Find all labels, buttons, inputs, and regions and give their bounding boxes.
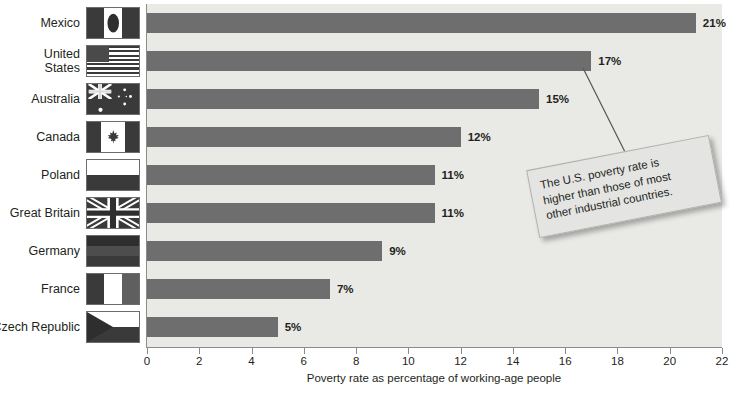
country-label: France — [0, 282, 80, 296]
country-label: Great Britain — [0, 206, 80, 220]
chart-row: Germany9% — [0, 232, 735, 270]
bar — [147, 241, 382, 261]
x-axis-tick-label: 2 — [196, 355, 202, 367]
country-label-line-1: Poland — [0, 168, 80, 182]
country-label-line-1: Australia — [0, 92, 80, 106]
x-axis-tick — [670, 348, 671, 354]
bar — [147, 165, 435, 185]
flag-france-icon — [86, 273, 140, 305]
country-label-line-1: Czech Republic — [0, 320, 80, 334]
flag-australia-icon — [86, 83, 140, 115]
country-label-line-1: Canada — [0, 130, 80, 144]
x-axis-tick — [722, 348, 723, 354]
flag-mexico-icon — [86, 7, 140, 39]
bar — [147, 89, 539, 109]
x-axis-tick — [356, 348, 357, 354]
x-axis-tick-label: 12 — [454, 355, 467, 367]
country-label-line-1: United — [0, 47, 80, 61]
bar-value-label: 15% — [546, 93, 569, 105]
x-axis-tick-label: 6 — [301, 355, 307, 367]
bar-value-label: 11% — [442, 169, 464, 181]
chart-row: Czech Republic5% — [0, 308, 735, 346]
x-axis-tick — [147, 348, 148, 354]
bar — [147, 127, 461, 147]
x-axis-tick-label: 16 — [559, 355, 572, 367]
x-axis-tick-label: 0 — [144, 355, 150, 367]
x-axis-tick — [252, 348, 253, 354]
x-axis-tick — [408, 348, 409, 354]
country-label: Poland — [0, 168, 80, 182]
x-axis-tick-label: 4 — [248, 355, 254, 367]
x-axis-tick — [304, 348, 305, 354]
x-axis-tick — [565, 348, 566, 354]
x-axis: 0246810121416182022 — [146, 348, 722, 368]
chart-row: France7% — [0, 270, 735, 308]
x-axis-tick-label: 10 — [402, 355, 415, 367]
chart-row: Mexico21% — [0, 4, 735, 42]
x-axis-tick — [461, 348, 462, 354]
bar-value-label: 7% — [337, 283, 354, 295]
flag-united-states-icon — [86, 45, 140, 77]
flag-great-britain-icon — [86, 197, 140, 229]
country-label: Czech Republic — [0, 320, 80, 334]
bar-value-label: 12% — [468, 131, 491, 143]
poverty-rate-bar-chart: Mexico21%UnitedStates17%Australia15%Cana… — [0, 0, 735, 395]
bar-value-label: 9% — [389, 245, 406, 257]
x-axis-title: Poverty rate as percentage of working-ag… — [146, 372, 722, 384]
x-axis-tick-label: 22 — [716, 355, 729, 367]
flag-germany-icon — [86, 235, 140, 267]
x-axis-tick — [617, 348, 618, 354]
country-label-line-2: States — [0, 61, 80, 75]
bar — [147, 51, 591, 71]
country-label: Mexico — [0, 16, 80, 30]
flag-poland-icon — [86, 159, 140, 191]
x-axis-tick-label: 18 — [611, 355, 624, 367]
chart-row: UnitedStates17% — [0, 42, 735, 80]
bar-value-label: 21% — [703, 17, 726, 29]
chart-row: Australia15% — [0, 80, 735, 118]
x-axis-tick-label: 8 — [353, 355, 359, 367]
country-label-line-1: Germany — [0, 244, 80, 258]
bar-value-label: 5% — [285, 321, 302, 333]
x-axis-tick — [513, 348, 514, 354]
country-label: UnitedStates — [0, 47, 80, 75]
bar — [147, 279, 330, 299]
flag-czech-republic-icon — [86, 311, 140, 343]
bar — [147, 13, 696, 33]
bar — [147, 317, 278, 337]
country-label: Germany — [0, 244, 80, 258]
x-axis-tick-label: 14 — [507, 355, 520, 367]
bar-value-label: 11% — [442, 207, 464, 219]
country-label-line-1: Mexico — [0, 16, 80, 30]
x-axis-tick — [199, 348, 200, 354]
country-label: Australia — [0, 92, 80, 106]
x-axis-tick-label: 20 — [663, 355, 676, 367]
country-label-line-1: France — [0, 282, 80, 296]
bar-value-label: 17% — [598, 55, 621, 67]
bar — [147, 203, 435, 223]
flag-canada-icon — [86, 121, 140, 153]
country-label: Canada — [0, 130, 80, 144]
country-label-line-1: Great Britain — [0, 206, 80, 220]
